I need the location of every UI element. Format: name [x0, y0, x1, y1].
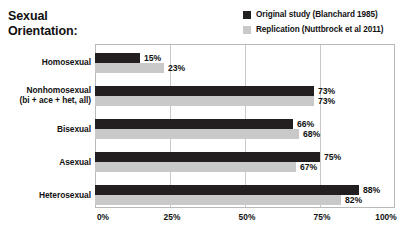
- category-label-bisexual: Bisexual: [0, 124, 91, 134]
- bar-group-homosexual: 15% 23%: [95, 53, 395, 74]
- x-tick-100: 100%: [375, 212, 396, 223]
- bar-asexual-replication: [95, 162, 296, 172]
- category-label-homosexual: Homosexual: [0, 57, 91, 67]
- bar-value-homosexual-replication: 23%: [164, 63, 185, 73]
- x-axis-labels: 0% 25% 50% 75% 100%: [95, 212, 395, 226]
- bar-bisexual-replication: [95, 129, 299, 139]
- bar-chart: Sexual Orientation: Original study (Blan…: [0, 0, 419, 245]
- category-label-heterosexual-line1: Heterosexual: [39, 190, 91, 200]
- legend-label-original: Original study (Blanchard 1985): [256, 10, 378, 20]
- bar-heterosexual-original: [95, 185, 359, 195]
- x-tick-50: 50%: [239, 212, 256, 223]
- bar-value-nonhomosexual-original: 73%: [314, 86, 335, 96]
- x-tick-0: 0%: [97, 212, 109, 223]
- category-label-nonhomosexual-line2: (bi + ace + het, all): [0, 95, 91, 105]
- category-label-bisexual-line1: Bisexual: [57, 124, 91, 134]
- legend-label-replication: Replication (Nuttbrock et al 2011): [256, 25, 384, 35]
- bar-asexual-original: [95, 152, 320, 162]
- legend-swatch-original-icon: [243, 11, 251, 19]
- bar-value-asexual-replication: 67%: [296, 162, 317, 172]
- bar-value-heterosexual-original: 88%: [359, 185, 380, 195]
- bar-nonhomosexual-original: [95, 86, 314, 96]
- bar-nonhomosexual-replication: [95, 96, 314, 106]
- chart-title-line-1: Sexual: [8, 9, 138, 24]
- category-label-heterosexual: Heterosexual: [0, 190, 91, 200]
- bar-homosexual-original: [95, 53, 140, 63]
- bar-heterosexual-replication: [95, 195, 341, 205]
- category-label-nonhomosexual-line1: Nonhomosexual: [27, 85, 92, 95]
- bar-value-nonhomosexual-replication: 73%: [314, 96, 335, 106]
- chart-legend: Original study (Blanchard 1985) Replicat…: [243, 10, 419, 40]
- x-tick-25: 25%: [164, 212, 181, 223]
- legend-item-replication: Replication (Nuttbrock et al 2011): [243, 25, 419, 37]
- bar-value-heterosexual-replication: 82%: [341, 195, 362, 205]
- bar-homosexual-replication: [95, 63, 164, 73]
- chart-title: Sexual Orientation:: [8, 9, 138, 39]
- bar-group-asexual: 75% 67%: [95, 152, 395, 173]
- bar-rows: 15% 23% 73% 73% 66% 68% 75% 67% 88% 82%: [95, 44, 395, 208]
- category-label-asexual-line1: Asexual: [59, 157, 91, 167]
- bar-bisexual-original: [95, 119, 293, 129]
- bar-value-bisexual-original: 66%: [293, 119, 314, 129]
- bar-group-bisexual: 66% 68%: [95, 119, 395, 140]
- bar-group-heterosexual: 88% 82%: [95, 185, 395, 206]
- chart-title-line-2: Orientation:: [8, 24, 138, 39]
- category-label-nonhomosexual: Nonhomosexual (bi + ace + het, all): [0, 85, 91, 105]
- legend-item-original: Original study (Blanchard 1985): [243, 10, 419, 22]
- bar-value-homosexual-original: 15%: [140, 53, 161, 63]
- x-tick-75: 75%: [314, 212, 331, 223]
- bar-value-asexual-original: 75%: [320, 152, 341, 162]
- category-label-homosexual-line1: Homosexual: [42, 57, 91, 67]
- y-axis-labels: Homosexual Nonhomosexual (bi + ace + het…: [0, 44, 91, 208]
- bar-value-bisexual-replication: 68%: [299, 129, 320, 139]
- legend-swatch-replication-icon: [243, 26, 251, 34]
- category-label-asexual: Asexual: [0, 157, 91, 167]
- bar-group-nonhomosexual: 73% 73%: [95, 86, 395, 107]
